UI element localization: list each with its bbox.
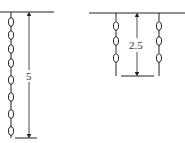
right-chain-1 bbox=[114, 13, 119, 76]
right-dimension-label: 2.5 bbox=[129, 39, 143, 51]
left-dimension-label: 5 bbox=[26, 70, 32, 82]
left-hanging-chain-figure: 5 bbox=[0, 12, 54, 138]
left-chain bbox=[9, 12, 14, 138]
right-chain-2 bbox=[157, 13, 162, 76]
chain-diagram: 5 2.5 bbox=[0, 0, 185, 143]
right-hanging-chains-figure: 2.5 bbox=[89, 13, 185, 76]
